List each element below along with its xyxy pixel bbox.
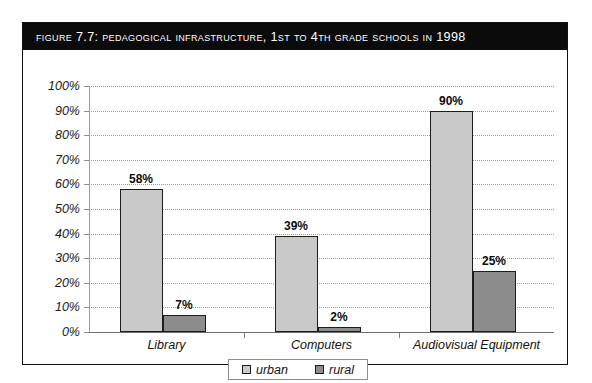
- bar-urban-library: [120, 189, 163, 332]
- x-axis-label-library: Library: [147, 338, 185, 352]
- gridline: [89, 111, 554, 112]
- bar-value-label: 90%: [439, 94, 463, 108]
- bar-urban-audiovisual-equipment: [430, 111, 473, 332]
- legend-label: urban: [256, 363, 288, 377]
- urban-swatch-icon: [242, 365, 251, 374]
- y-axis-tick: [84, 111, 89, 112]
- y-axis-tick: [84, 86, 89, 87]
- legend-entry-rural[interactable]: rural: [315, 363, 354, 377]
- bar-rural-audiovisual-equipment: [473, 271, 516, 333]
- rural-swatch-icon: [315, 365, 324, 374]
- y-axis-tick: [84, 135, 89, 136]
- y-axis-tick-label: 60%: [55, 177, 80, 191]
- legend-label: rural: [329, 363, 354, 377]
- chart-legend: urbanrural: [228, 359, 368, 380]
- y-axis-tick: [84, 234, 89, 235]
- gridline: [89, 184, 554, 185]
- y-axis-tick-label: 50%: [55, 202, 80, 216]
- x-axis-category-divider: [399, 332, 400, 338]
- bar-rural-library: [163, 315, 206, 332]
- y-axis-tick-label: 30%: [55, 251, 80, 265]
- bar-value-label: 39%: [284, 219, 308, 233]
- y-axis-tick-label: 100%: [48, 79, 80, 93]
- bar-rural-computers: [318, 327, 361, 332]
- y-axis-tick: [84, 283, 89, 284]
- gridline: [89, 135, 554, 136]
- y-axis-tick-label: 40%: [55, 227, 80, 241]
- y-axis-tick-label: 20%: [55, 276, 80, 290]
- legend-entry-urban[interactable]: urban: [242, 363, 288, 377]
- x-axis-label-computers: Computers: [291, 338, 352, 352]
- y-axis-tick: [84, 184, 89, 185]
- y-axis-tick: [84, 258, 89, 259]
- gridline: [89, 86, 554, 87]
- y-axis-tick: [84, 307, 89, 308]
- chart-area: 0%10%20%30%40%50%60%70%80%90%100% 58%7%3…: [23, 50, 567, 364]
- plot-area: 0%10%20%30%40%50%60%70%80%90%100% 58%7%3…: [89, 86, 554, 332]
- x-axis-label-audiovisual-equipment: Audiovisual Equipment: [413, 338, 540, 352]
- y-axis-tick-label: 10%: [55, 300, 80, 314]
- y-axis-tick: [84, 332, 89, 333]
- y-axis-tick-label: 0%: [62, 325, 80, 339]
- bar-value-label: 58%: [129, 172, 153, 186]
- figure-frame: Figure 7.7: Pedagogical Infrastructure, …: [22, 22, 568, 365]
- bar-urban-computers: [275, 236, 318, 332]
- y-axis-tick: [84, 209, 89, 210]
- bar-value-label: 2%: [330, 310, 347, 324]
- x-axis-category-divider: [244, 332, 245, 338]
- gridline: [89, 160, 554, 161]
- y-axis-tick-label: 90%: [55, 104, 80, 118]
- x-axis-line: [86, 332, 554, 333]
- figure-caption-bar: Figure 7.7: Pedagogical Infrastructure, …: [23, 23, 567, 50]
- figure-caption-text: Figure 7.7: Pedagogical Infrastructure, …: [23, 30, 466, 44]
- y-axis-tick-label: 80%: [55, 128, 80, 142]
- bar-value-label: 7%: [175, 298, 192, 312]
- bar-value-label: 25%: [482, 254, 506, 268]
- y-axis-tick: [84, 160, 89, 161]
- y-axis-tick-label: 70%: [55, 153, 80, 167]
